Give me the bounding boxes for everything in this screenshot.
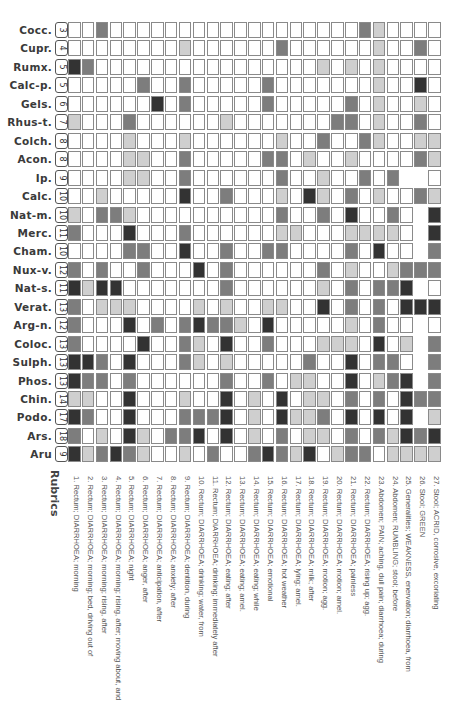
grade-cell[interactable] (68, 151, 81, 167)
grade-cell[interactable] (234, 354, 247, 370)
grade-cell[interactable] (220, 151, 233, 167)
grade-cell[interactable] (428, 77, 441, 93)
grade-cell[interactable] (276, 77, 289, 93)
grade-cell[interactable] (110, 114, 123, 130)
grade-cell[interactable] (179, 262, 192, 278)
grade-cell[interactable] (82, 96, 95, 112)
grade-cell[interactable] (290, 207, 303, 223)
grade-cell[interactable] (387, 59, 400, 75)
grade-cell[interactable] (165, 336, 178, 352)
grade-cell[interactable] (290, 225, 303, 241)
grade-cell[interactable] (234, 446, 247, 462)
grade-cell[interactable] (345, 428, 358, 444)
grade-cell[interactable] (400, 114, 413, 130)
grade-cell[interactable] (110, 446, 123, 462)
grade-cell[interactable] (165, 409, 178, 425)
grade-cell[interactable] (234, 280, 247, 296)
grade-cell[interactable] (262, 59, 275, 75)
grade-cell[interactable] (165, 59, 178, 75)
grade-cell[interactable] (207, 428, 220, 444)
grade-cell[interactable] (220, 317, 233, 333)
grade-cell[interactable] (303, 40, 316, 56)
grade-cell[interactable] (373, 446, 386, 462)
grade-cell[interactable] (331, 77, 344, 93)
grade-cell[interactable] (276, 317, 289, 333)
grade-cell[interactable] (373, 188, 386, 204)
grade-cell[interactable] (220, 96, 233, 112)
grade-cell[interactable] (234, 188, 247, 204)
grade-cell[interactable] (400, 77, 413, 93)
grade-cell[interactable] (82, 114, 95, 130)
grade-cell[interactable] (303, 317, 316, 333)
grade-cell[interactable] (303, 373, 316, 389)
grade-cell[interactable] (193, 96, 206, 112)
grade-cell[interactable] (373, 151, 386, 167)
grade-cell[interactable] (331, 299, 344, 315)
grade-cell[interactable] (123, 373, 136, 389)
grade-cell[interactable] (317, 243, 330, 259)
grade-cell[interactable] (373, 243, 386, 259)
grade-cell[interactable] (317, 262, 330, 278)
grade-cell[interactable] (96, 40, 109, 56)
grade-cell[interactable] (96, 243, 109, 259)
grade-cell[interactable] (207, 40, 220, 56)
grade-cell[interactable] (400, 280, 413, 296)
grade-cell[interactable] (359, 170, 372, 186)
grade-cell[interactable] (248, 40, 261, 56)
grade-cell[interactable] (400, 446, 413, 462)
grade-cell[interactable] (359, 336, 372, 352)
grade-cell[interactable] (359, 207, 372, 223)
grade-cell[interactable] (123, 446, 136, 462)
grade-cell[interactable] (359, 22, 372, 38)
grade-cell[interactable] (414, 391, 427, 407)
grade-cell[interactable] (193, 170, 206, 186)
grade-cell[interactable] (373, 317, 386, 333)
grade-cell[interactable] (179, 225, 192, 241)
grade-cell[interactable] (123, 59, 136, 75)
grade-cell[interactable] (68, 40, 81, 56)
grade-cell[interactable] (151, 317, 164, 333)
grade-cell[interactable] (123, 409, 136, 425)
grade-cell[interactable] (428, 151, 441, 167)
grade-cell[interactable] (82, 59, 95, 75)
grade-cell[interactable] (331, 22, 344, 38)
grade-cell[interactable] (123, 207, 136, 223)
grade-cell[interactable] (373, 96, 386, 112)
grade-cell[interactable] (317, 133, 330, 149)
grade-cell[interactable] (400, 225, 413, 241)
grade-cell[interactable] (137, 391, 150, 407)
grade-cell[interactable] (290, 428, 303, 444)
grade-cell[interactable] (276, 428, 289, 444)
rubric-label[interactable]: 1. Rectum; DIARRHOEA; morning (72, 476, 81, 703)
grade-cell[interactable] (387, 354, 400, 370)
grade-cell[interactable] (137, 22, 150, 38)
grade-cell[interactable] (68, 96, 81, 112)
grade-cell[interactable] (151, 207, 164, 223)
rubric-label[interactable]: 10. Rectum; DIARRHOEA; drinking; water, … (197, 476, 206, 703)
grade-cell[interactable] (68, 170, 81, 186)
grade-cell[interactable] (179, 354, 192, 370)
grade-cell[interactable] (276, 446, 289, 462)
grade-cell[interactable] (303, 243, 316, 259)
grade-cell[interactable] (414, 188, 427, 204)
grade-cell[interactable] (220, 243, 233, 259)
grade-cell[interactable] (96, 262, 109, 278)
grade-cell[interactable] (179, 188, 192, 204)
grade-cell[interactable] (151, 114, 164, 130)
grade-cell[interactable] (234, 299, 247, 315)
grade-cell[interactable] (303, 336, 316, 352)
grade-cell[interactable] (193, 77, 206, 93)
grade-cell[interactable] (303, 96, 316, 112)
grade-cell[interactable] (96, 225, 109, 241)
grade-cell[interactable] (400, 207, 413, 223)
remedy-name[interactable]: Merc. (0, 225, 52, 241)
grade-cell[interactable] (373, 428, 386, 444)
grade-cell[interactable] (207, 188, 220, 204)
grade-cell[interactable] (96, 446, 109, 462)
grade-cell[interactable] (303, 114, 316, 130)
grade-cell[interactable] (137, 188, 150, 204)
grade-cell[interactable] (220, 207, 233, 223)
remedy-name[interactable]: Chin. (0, 391, 52, 407)
grade-cell[interactable] (193, 133, 206, 149)
remedy-name[interactable]: Aru (0, 446, 52, 462)
